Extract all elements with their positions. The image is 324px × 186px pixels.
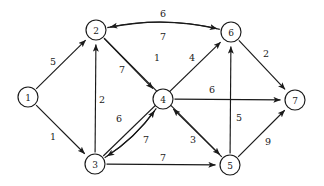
node-7[interactable]: 7: [285, 90, 305, 110]
edge-5-to-7: [238, 110, 285, 157]
node-label-7: 7: [292, 96, 298, 106]
edge-weight-5-4: 3: [190, 134, 196, 145]
node-label-4: 4: [160, 95, 166, 105]
edge-weight-1-2: 5: [50, 56, 56, 67]
node-label-3: 3: [92, 160, 98, 170]
graph-canvas: 5126771467376529 1234567: [0, 0, 324, 186]
edge-weight-2-5: 1: [154, 52, 160, 63]
edge-weight-5-6: 5: [236, 112, 242, 123]
edge-weight-3-5: 7: [160, 152, 166, 163]
node-2[interactable]: 2: [86, 20, 106, 40]
edge-weight-5-7: 9: [265, 136, 271, 147]
edge-weight-3-2: 2: [99, 94, 105, 105]
edge-6-to-7: [239, 40, 285, 89]
node-4[interactable]: 4: [153, 89, 173, 109]
node-label-5: 5: [227, 161, 233, 171]
node-label-6: 6: [228, 28, 234, 38]
edge-4-to-7: [174, 99, 280, 100]
edge-weight-1-3: 1: [50, 131, 56, 142]
node-3[interactable]: 3: [85, 154, 105, 174]
edge-weight-6-2: 7: [160, 31, 166, 42]
edge-5-to-4: [173, 109, 221, 157]
edge-weight-2-6: 6: [160, 8, 166, 19]
edge-weight-2-4: 7: [119, 64, 125, 75]
edge-weight-3-4: 6: [116, 113, 122, 124]
edge-3-to-2: [95, 44, 96, 152]
edge-weight-4-7: 6: [209, 84, 215, 95]
node-6[interactable]: 6: [221, 22, 241, 42]
graph-diagram: 5126771467376529 1234567: [0, 0, 324, 186]
edge-6-to-2: [110, 22, 220, 29]
node-5[interactable]: 5: [220, 155, 240, 175]
edge-1-to-3: [36, 105, 85, 154]
edge-4-to-3: [107, 108, 156, 156]
edge-1-to-2: [36, 40, 85, 89]
edge-5-to-6: [230, 46, 231, 153]
node-label-1: 1: [25, 93, 31, 103]
edge-weight-3-6: 4: [189, 52, 195, 63]
edge-3-to-5: [106, 164, 215, 165]
node-1[interactable]: 1: [18, 87, 38, 107]
edge-weight-4-3: 7: [143, 134, 149, 145]
node-label-2: 2: [93, 26, 99, 36]
edge-weight-6-7: 2: [263, 48, 269, 59]
